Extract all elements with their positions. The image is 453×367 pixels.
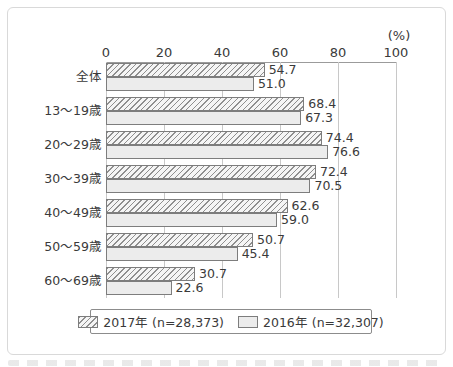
- value-label-2016年-4: 70.5: [314, 177, 342, 195]
- category-label: 50〜59歳: [18, 238, 102, 256]
- value-label-2016年-7: 22.6: [176, 279, 204, 297]
- category-label: 13〜19歳: [18, 102, 102, 120]
- bar-2016年-1: [106, 77, 254, 91]
- x-tick-label-80: 80: [316, 45, 360, 61]
- gridline-100: [396, 62, 397, 298]
- x-tick-label-100: 100: [374, 45, 418, 61]
- value-label-2016年-6: 45.4: [242, 245, 270, 263]
- value-label-2016年-3: 76.6: [332, 143, 360, 161]
- value-label-2016年-5: 59.0: [281, 211, 309, 229]
- legend-item-2017: 2017年 (n=28,373): [78, 312, 224, 331]
- value-label-2016年-2: 67.3: [305, 109, 333, 127]
- bar-2017年-3: [106, 131, 322, 145]
- category-label: 全体: [18, 68, 102, 86]
- category-label: 60〜69歳: [18, 272, 102, 290]
- bar-2017年-2: [106, 97, 304, 111]
- bar-2016年-4: [106, 179, 310, 193]
- legend-swatch-2017-hatched-icon: [78, 316, 98, 328]
- bar-2016年-5: [106, 213, 277, 227]
- legend-label-2017: 2017年 (n=28,373): [103, 312, 224, 331]
- cropped-caption-strip: [8, 360, 445, 366]
- value-label-2016年-1: 51.0: [258, 75, 286, 93]
- bar-2016年-3: [106, 145, 328, 159]
- category-label: 30〜39歳: [18, 170, 102, 188]
- bar-2017年-5: [106, 199, 288, 213]
- bar-2016年-7: [106, 281, 172, 295]
- chart-canvas: (%) 020406080100全体54.751.013〜19歳68.467.3…: [0, 0, 453, 367]
- legend-label-2016: 2016年 (n=32,307): [263, 312, 384, 331]
- legend-swatch-2016-solid-icon: [238, 316, 258, 328]
- bar-2017年-6: [106, 233, 253, 247]
- category-label: 20〜29歳: [18, 136, 102, 154]
- x-tick-label-40: 40: [200, 45, 244, 61]
- legend-item-2016: 2016年 (n=32,307): [238, 312, 384, 331]
- bar-2017年-4: [106, 165, 316, 179]
- x-tick-label-60: 60: [258, 45, 302, 61]
- bar-2016年-6: [106, 247, 238, 261]
- bar-2016年-2: [106, 111, 301, 125]
- x-tick-label-0: 0: [84, 45, 128, 61]
- bar-2017年-1: [106, 63, 265, 77]
- category-label: 40〜49歳: [18, 204, 102, 222]
- x-tick-label-20: 20: [142, 45, 186, 61]
- legend-box: 2017年 (n=28,373) 2016年 (n=32,307): [90, 309, 372, 334]
- axis-unit-label: (%): [376, 28, 422, 44]
